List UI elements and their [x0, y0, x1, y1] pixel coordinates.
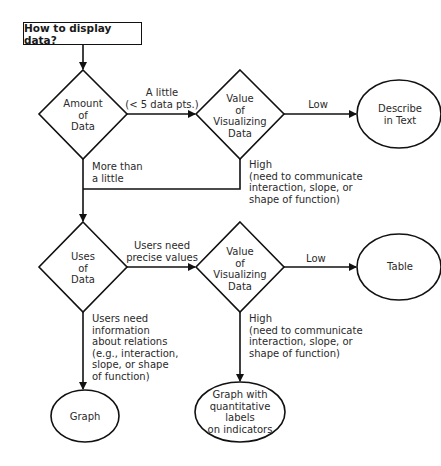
label-line: Visualizing [213, 269, 266, 281]
label-line: information [92, 325, 178, 337]
label-line: shape of function) [249, 348, 363, 360]
label-line: High [249, 313, 363, 325]
label-line: Uses [71, 251, 95, 263]
label-line: Data [213, 281, 266, 293]
label-line: A little [125, 87, 198, 99]
edge-label-precise: Users need precise values [126, 240, 198, 263]
label-line: Table [387, 261, 413, 273]
label-line: Low [308, 99, 328, 111]
label-line: Users need [92, 313, 178, 325]
edge-label-more-than: More than a little [92, 161, 143, 184]
label-line: (< 5 data pts.) [125, 99, 198, 111]
label-line: about relations [92, 336, 178, 348]
edge-label-high2: High (need to communicate interaction, s… [249, 313, 363, 359]
label-line: in Text [378, 115, 422, 127]
edge-label-low1: Low [308, 99, 328, 111]
label-line: shape of function) [249, 194, 363, 206]
label-uses: Uses of Data [71, 251, 95, 286]
title-text: How to display data? [24, 22, 141, 46]
label-line: of function) [92, 371, 178, 383]
label-amount: Amount of Data [63, 98, 102, 133]
label-line: (need to communicate [249, 171, 363, 183]
edge-label-high1: High (need to communicate interaction, s… [249, 159, 363, 205]
label-line: Low [306, 253, 326, 265]
label-line: Amount [63, 98, 102, 110]
label-line: quantitative [208, 401, 273, 413]
label-line: Graph [70, 411, 101, 423]
label-line: labels [208, 412, 273, 424]
label-graph-labels: Graph with quantitative labels on indica… [208, 389, 273, 435]
label-line: precise values [126, 252, 198, 264]
label-value2: Value of Visualizing Data [213, 246, 266, 292]
label-line: of [71, 263, 95, 275]
label-line: interaction, slope, or [249, 182, 363, 194]
label-line: on indicators [208, 424, 273, 436]
label-line: Users need [126, 240, 198, 252]
label-line: Describe [378, 103, 422, 115]
label-line: Data [71, 274, 95, 286]
label-line: (need to communicate [249, 325, 363, 337]
label-line: Value [213, 246, 266, 258]
label-line: a little [92, 173, 143, 185]
label-line: Value [213, 93, 266, 105]
label-line: Visualizing [213, 116, 266, 128]
label-graph: Graph [70, 411, 101, 423]
edge-label-low2: Low [306, 253, 326, 265]
edge-label-relations: Users need information about relations (… [92, 313, 178, 382]
label-value1: Value of Visualizing Data [213, 93, 266, 139]
label-line: Graph with [208, 389, 273, 401]
label-line: High [249, 159, 363, 171]
label-line: (e.g., interaction, [92, 348, 178, 360]
start-box-title: How to display data? [23, 22, 142, 45]
label-describe: Describe in Text [378, 103, 422, 126]
label-table: Table [387, 261, 413, 273]
label-line: Data [213, 128, 266, 140]
label-line: of [213, 105, 266, 117]
edge-label-a-little: A little (< 5 data pts.) [125, 87, 198, 110]
label-line: More than [92, 161, 143, 173]
label-line: Data [63, 121, 102, 133]
label-line: of [63, 110, 102, 122]
label-line: slope, or shape [92, 359, 178, 371]
label-line: interaction, slope, or [249, 336, 363, 348]
label-line: of [213, 258, 266, 270]
